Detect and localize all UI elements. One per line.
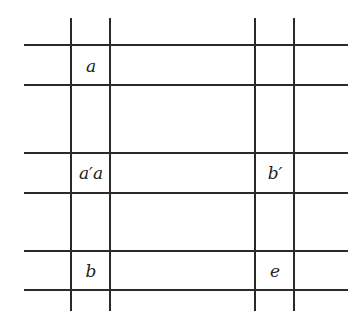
horizontal-line-2 bbox=[24, 84, 348, 86]
label-b-prime: b′ bbox=[256, 163, 294, 183]
horizontal-line-1 bbox=[24, 44, 348, 46]
horizontal-line-5 bbox=[24, 250, 348, 252]
label-a: a bbox=[72, 56, 110, 76]
label-a-prime-a: a′a bbox=[72, 163, 110, 183]
label-e: e bbox=[256, 261, 294, 281]
label-b: b bbox=[72, 261, 110, 281]
horizontal-line-4 bbox=[24, 192, 348, 194]
grid-diagram: a a′a b′ b e bbox=[0, 0, 362, 326]
horizontal-line-3 bbox=[24, 152, 348, 154]
horizontal-line-6 bbox=[24, 289, 348, 291]
